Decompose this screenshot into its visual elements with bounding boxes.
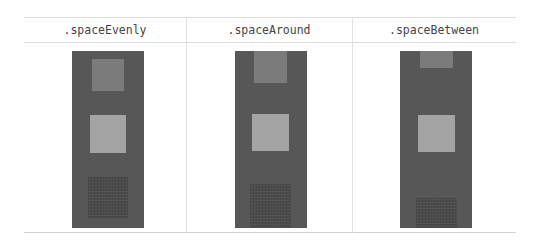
space-between-container <box>400 51 472 228</box>
column-header-space-between: .spaceBetween <box>352 18 516 42</box>
table-header-row: .spaceEvenly .spaceAround .spaceBetween <box>24 18 516 43</box>
large-square-item <box>416 198 457 228</box>
small-square-item <box>254 51 287 83</box>
column-header-space-around: .spaceAround <box>186 18 352 42</box>
large-square-item <box>88 176 128 219</box>
space-around-container <box>235 51 307 228</box>
medium-square-item <box>90 115 126 153</box>
column-divider <box>186 18 187 233</box>
column-divider <box>352 18 353 233</box>
small-square-item <box>420 51 453 68</box>
medium-square-item <box>252 114 289 151</box>
small-square-item <box>92 59 124 91</box>
medium-square-item <box>418 115 455 152</box>
column-header-space-evenly: .spaceEvenly <box>24 18 186 42</box>
large-square-item <box>250 184 291 228</box>
space-evenly-container <box>72 51 144 228</box>
layout-comparison-table: .spaceEvenly .spaceAround .spaceBetween <box>24 17 516 233</box>
